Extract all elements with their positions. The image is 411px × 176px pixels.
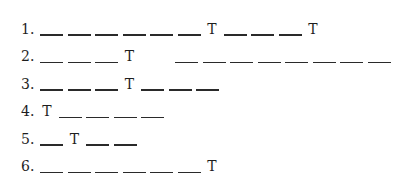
blank-letter-slot[interactable]: [86, 131, 109, 147]
blank-letter-slot[interactable]: [114, 131, 137, 147]
blank-letter-slot[interactable]: [68, 158, 91, 174]
blank-letter-slot[interactable]: [169, 76, 192, 92]
row-number: 1.: [21, 21, 40, 37]
blank-letter-slot[interactable]: [40, 21, 63, 37]
blank-letter-slot[interactable]: [251, 21, 274, 37]
row-number: 3.: [21, 76, 40, 92]
blank-letter-slot[interactable]: [95, 158, 118, 174]
blank-letter-slot[interactable]: [203, 48, 226, 64]
blank-letter-slot[interactable]: [95, 48, 118, 64]
blank-letter-slot[interactable]: [68, 21, 91, 37]
puzzle-row-1: 1.TT: [21, 9, 395, 37]
blank-letter-slot[interactable]: [230, 48, 253, 64]
given-letter: T: [205, 21, 219, 37]
blank-letter-slot[interactable]: [40, 158, 63, 174]
puzzle-row-4: 4.T: [21, 92, 395, 120]
blank-letter-slot[interactable]: [178, 21, 201, 37]
blank-letter-slot[interactable]: [279, 21, 302, 37]
puzzle-row-3: 3.T: [21, 64, 395, 92]
row-number: 6.: [21, 158, 40, 174]
blank-letter-slot[interactable]: [40, 131, 63, 147]
given-letter: T: [306, 21, 320, 37]
given-letter: T: [40, 103, 54, 119]
blank-letter-slot[interactable]: [258, 48, 281, 64]
blank-letter-slot[interactable]: [150, 158, 173, 174]
blank-letter-slot[interactable]: [285, 48, 308, 64]
puzzle-row-5: 5.T: [21, 119, 395, 147]
blank-letter-slot[interactable]: [40, 48, 63, 64]
puzzle-row-6: 6.T: [21, 147, 395, 175]
blank-letter-slot[interactable]: [95, 21, 118, 37]
given-letter: T: [205, 158, 219, 174]
blank-letter-slot[interactable]: [86, 103, 109, 119]
blank-letter-slot[interactable]: [150, 21, 173, 37]
blank-letter-slot[interactable]: [68, 76, 91, 92]
blank-letter-slot[interactable]: [114, 103, 137, 119]
blank-letter-slot[interactable]: [141, 76, 164, 92]
blank-letter-slot[interactable]: [368, 48, 391, 64]
row-number: 5.: [21, 131, 40, 147]
blank-letter-slot[interactable]: [123, 158, 146, 174]
given-letter: T: [123, 76, 137, 92]
blank-letter-slot[interactable]: [68, 48, 91, 64]
blank-letter-slot[interactable]: [178, 158, 201, 174]
given-letter: T: [68, 131, 82, 147]
blank-letter-slot[interactable]: [175, 48, 198, 64]
blank-letter-slot[interactable]: [59, 103, 82, 119]
blank-letter-slot[interactable]: [224, 21, 247, 37]
word-puzzle: 1.TT2.T3.T4.T5.T6.T: [21, 9, 395, 174]
blank-letter-slot[interactable]: [40, 76, 63, 92]
blank-letter-slot[interactable]: [95, 76, 118, 92]
puzzle-row-2: 2.T: [21, 37, 395, 65]
blank-letter-slot[interactable]: [141, 103, 164, 119]
blank-letter-slot[interactable]: [340, 48, 363, 64]
blank-letter-slot[interactable]: [196, 76, 219, 92]
row-number: 4.: [21, 103, 40, 119]
blank-letter-slot[interactable]: [313, 48, 336, 64]
blank-letter-slot[interactable]: [123, 21, 146, 37]
given-letter: T: [123, 48, 137, 64]
row-number: 2.: [21, 48, 40, 64]
